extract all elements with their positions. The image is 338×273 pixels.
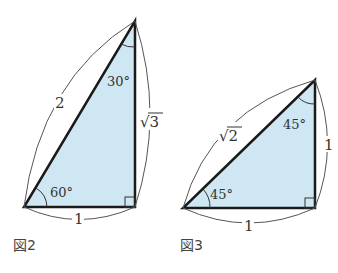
triangle-45-45-90: [183, 80, 315, 208]
angle-30-label: 30°: [107, 74, 130, 89]
hypotenuse-label: 2: [55, 94, 65, 112]
hypotenuse-label: √2: [219, 127, 238, 145]
figure-2: 1 2 √3 60° 30° 図2: [13, 21, 164, 253]
angle-45-bottom-label: 45°: [210, 187, 233, 202]
triangle-30-60-90: [24, 21, 135, 207]
triangle-diagrams: 1 2 √3 60° 30° 図2 1 √2 1 45° 45° 図3: [0, 0, 338, 273]
base-label: 1: [74, 210, 84, 228]
vertical-label: √3: [140, 113, 159, 131]
angle-60-label: 60°: [50, 185, 73, 200]
vertical-label: 1: [324, 136, 334, 154]
figure-caption: 図2: [13, 237, 36, 253]
figure-3: 1 √2 1 45° 45° 図3: [180, 80, 335, 253]
angle-45-top-label: 45°: [283, 117, 306, 132]
base-label: 1: [244, 217, 254, 235]
figure-caption: 図3: [180, 237, 203, 253]
